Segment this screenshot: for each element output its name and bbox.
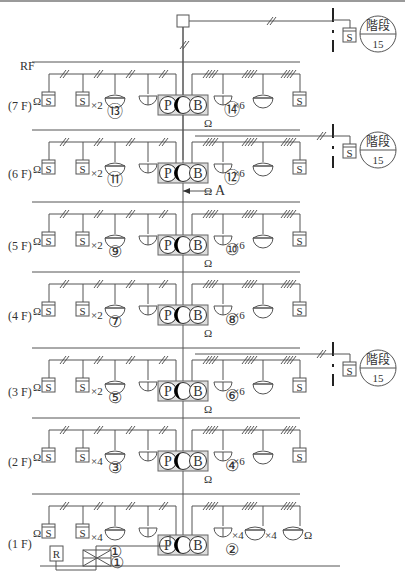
- sensor-icon: S: [76, 302, 89, 317]
- wall-light-icon: [139, 382, 157, 391]
- sensor-icon: S: [42, 92, 55, 107]
- circuit-number: ⑪: [107, 171, 123, 188]
- floor-label: (1 F): [8, 537, 32, 551]
- omega-label: Ω: [33, 95, 41, 107]
- sensor-letter: S: [296, 163, 302, 175]
- stair-number: 15: [373, 154, 385, 166]
- omega-label: Ω: [304, 529, 312, 541]
- sensor-letter: S: [79, 163, 85, 175]
- remote-control: R: [50, 546, 63, 561]
- floor-label: (6 F): [8, 167, 32, 181]
- omega-label: Ω: [204, 117, 212, 129]
- sensor-icon: S: [42, 232, 55, 247]
- panel-pob-icon: PB: [158, 451, 208, 471]
- sensor-letter: S: [346, 31, 352, 43]
- wall-light-icon: [139, 96, 157, 105]
- p-letter: P: [164, 238, 172, 253]
- sensor-icon: S: [343, 362, 356, 377]
- stair-light-group: S階段15: [333, 342, 396, 386]
- sensor-icon: S: [293, 92, 306, 107]
- omega-label: Ω: [33, 381, 41, 393]
- floor-1F: (1 F)ΩSS×4①×4×4Ω②PBR①: [8, 502, 312, 571]
- panel-pob-icon: PB: [158, 381, 208, 401]
- stair-number: 15: [373, 38, 385, 50]
- multiplier-label: ×4: [91, 531, 103, 543]
- floor-3F: (3 F)ΩSS×2⑤×6S⑥ΩPBS階段15: [8, 342, 396, 415]
- sensor-letter: S: [296, 381, 302, 393]
- circuit-number: ⑭: [224, 101, 240, 118]
- b-letter: B: [193, 538, 202, 553]
- circuit-number: ⑦: [108, 313, 122, 330]
- floor-label: (3 F): [8, 385, 32, 399]
- circuit-number: ⑥: [225, 387, 239, 404]
- wall-light-icon: [139, 236, 157, 245]
- sensor-letter: S: [346, 365, 352, 377]
- sensor-letter: S: [45, 451, 51, 463]
- omega-label: Ω: [33, 451, 41, 463]
- sensor-letter: S: [296, 95, 302, 107]
- multiplier-label: ×2: [91, 385, 103, 397]
- stair-light-icon: 階段15: [360, 16, 396, 52]
- ceiling-light-icon: [253, 95, 273, 108]
- floor-label: (5 F): [8, 239, 32, 253]
- circuit-number: ⑧: [225, 311, 239, 328]
- sensor-icon: S: [76, 378, 89, 393]
- ceiling-light-icon: [253, 305, 273, 318]
- stair-label: 階段: [366, 18, 390, 33]
- b-letter: B: [193, 166, 202, 181]
- sensor-icon: S: [343, 144, 356, 159]
- floor-label: (2 F): [8, 455, 32, 469]
- fan-icon: [83, 550, 111, 566]
- wall-light-icon: [139, 306, 157, 315]
- stair-label: 階段: [366, 134, 390, 149]
- p-letter: P: [164, 454, 172, 469]
- circuit-number: ⑬: [107, 103, 123, 120]
- wall-light-icon: [139, 164, 157, 173]
- sensor-letter: S: [79, 235, 85, 247]
- sensor-icon: S: [76, 524, 89, 539]
- panel-pob-icon: PB: [158, 535, 208, 555]
- b-letter: B: [193, 308, 202, 323]
- omega-label: Ω: [33, 305, 41, 317]
- stair-number: 15: [373, 372, 385, 384]
- omega-label: Ω: [204, 327, 212, 339]
- sensor-icon: S: [76, 160, 89, 175]
- circuit-number: ⑫: [224, 169, 240, 186]
- omega-label: Ω: [33, 163, 41, 175]
- multiplier-label: ×4: [265, 529, 277, 541]
- multiplier-label: ×4: [232, 529, 244, 541]
- sensor-letter: S: [79, 451, 85, 463]
- stair-label: 階段: [366, 352, 390, 367]
- sensor-letter: S: [296, 235, 302, 247]
- panel-pob-icon: PB: [158, 163, 208, 183]
- sensor-icon: S: [293, 448, 306, 463]
- floor-4F: (4 F)ΩSS×2⑦×6S⑧ΩPB: [8, 280, 306, 339]
- b-letter: B: [193, 384, 202, 399]
- stair-light-group: S階段15: [333, 124, 396, 168]
- sensor-letter: S: [45, 163, 51, 175]
- circuit-number: ②: [225, 541, 239, 558]
- p-letter: P: [164, 98, 172, 113]
- b-letter: B: [193, 238, 202, 253]
- floor-label: (4 F): [8, 309, 32, 323]
- wall-light-icon: [139, 452, 157, 461]
- sensor-letter: S: [79, 305, 85, 317]
- p-letter: P: [164, 166, 172, 181]
- sensor-letter: S: [296, 305, 302, 317]
- floor-2F: (2 F)ΩSS×4③×6S④ΩPB: [8, 426, 306, 485]
- arrow-label: A: [215, 183, 226, 198]
- roof-level: RFS階段15: [20, 8, 396, 160]
- multiplier-label: ×4: [91, 455, 103, 467]
- p-letter: P: [164, 384, 172, 399]
- circuit-number: ④: [225, 457, 239, 474]
- sensor-icon: S: [293, 378, 306, 393]
- multiplier-label: ×2: [91, 99, 103, 111]
- circuit-number: ⑤: [108, 389, 122, 406]
- sensor-letter: S: [79, 527, 85, 539]
- sensor-icon: S: [76, 92, 89, 107]
- sensor-icon: S: [293, 160, 306, 175]
- wall-light-icon: [139, 528, 157, 537]
- omega-label: Ω: [204, 473, 212, 485]
- sensor-icon: S: [293, 232, 306, 247]
- ceiling-light-icon: [253, 235, 273, 248]
